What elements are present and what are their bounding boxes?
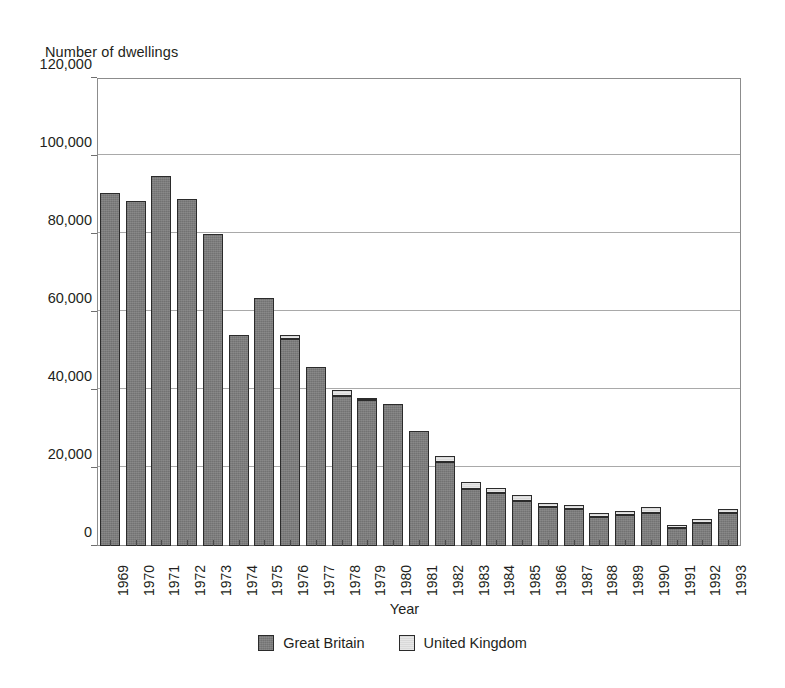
bar-segment-united-kingdom-1979[interactable] [357, 398, 377, 400]
chart-legend: Great BritainUnited Kingdom [0, 635, 785, 651]
x-tick-label-1985: 1985 [528, 550, 542, 596]
bar-segment-great-britain-1983[interactable] [461, 489, 481, 546]
x-tick-label-1980: 1980 [399, 550, 413, 596]
x-tick-label-1993: 1993 [734, 550, 748, 596]
bar-segment-great-britain-1973[interactable] [203, 234, 223, 546]
x-tick-mark-1975 [264, 540, 265, 546]
bar-segment-united-kingdom-1986[interactable] [538, 503, 558, 507]
x-tick-mark-1971 [161, 540, 162, 546]
x-tick-mark-1988 [599, 540, 600, 546]
bar-segment-great-britain-1979[interactable] [357, 400, 377, 546]
x-tick-mark-1982 [445, 540, 446, 546]
bar-segment-great-britain-1975[interactable] [254, 298, 274, 546]
bars-layer [97, 78, 741, 546]
bar-segment-great-britain-1980[interactable] [383, 404, 403, 546]
x-tick-mark-1978 [342, 540, 343, 546]
x-tick-label-1976: 1976 [296, 550, 310, 596]
x-axis-title-text: Year [390, 601, 419, 617]
bar-group-1982[interactable] [435, 456, 455, 546]
x-tick-mark-1970 [136, 540, 137, 546]
bar-segment-united-kingdom-1982[interactable] [435, 456, 455, 462]
x-tick-label-1984: 1984 [502, 550, 516, 596]
x-tick-label-1974: 1974 [245, 550, 259, 596]
legend-swatch-united-kingdom [399, 635, 415, 651]
x-tick-label-1989: 1989 [631, 550, 645, 596]
x-tick-mark-1984 [496, 540, 497, 546]
bar-group-1980[interactable] [383, 404, 403, 546]
bar-segment-great-britain-1970[interactable] [126, 201, 146, 546]
x-tick-label-1982: 1982 [451, 550, 465, 596]
bar-group-1981[interactable] [409, 431, 429, 546]
bar-segment-united-kingdom-1991[interactable] [667, 525, 687, 529]
x-tick-label-1969: 1969 [116, 550, 130, 596]
bar-segment-united-kingdom-1987[interactable] [564, 505, 584, 509]
x-tick-label-1992: 1992 [708, 550, 722, 596]
x-tick-label-1979: 1979 [373, 550, 387, 596]
bar-segment-great-britain-1972[interactable] [177, 199, 197, 546]
x-tick-mark-1992 [702, 540, 703, 546]
bar-segment-united-kingdom-1984[interactable] [486, 488, 506, 494]
x-tick-mark-1991 [677, 540, 678, 546]
bar-segment-great-britain-1976[interactable] [280, 339, 300, 546]
bar-segment-great-britain-1977[interactable] [306, 367, 326, 546]
bar-segment-great-britain-1978[interactable] [332, 396, 352, 546]
bar-segment-united-kingdom-1988[interactable] [589, 513, 609, 517]
bar-segment-united-kingdom-1990[interactable] [641, 507, 661, 513]
x-tick-mark-1976 [290, 540, 291, 546]
y-tick-label-120000: 120,000 [22, 57, 92, 71]
bar-group-1977[interactable] [306, 367, 326, 546]
bar-segment-united-kingdom-1978[interactable] [332, 390, 352, 396]
bar-group-1979[interactable] [357, 398, 377, 546]
y-axis-tick-labels: 020,00040,00060,00080,000100,000120,000 [18, 78, 92, 546]
bar-segment-united-kingdom-1976[interactable] [280, 335, 300, 339]
bar-segment-united-kingdom-1985[interactable] [512, 495, 532, 501]
x-tick-label-1970: 1970 [142, 550, 156, 596]
bar-group-1972[interactable] [177, 199, 197, 546]
bar-group-1973[interactable] [203, 234, 223, 546]
bar-segment-great-britain-1984[interactable] [486, 493, 506, 546]
bar-segment-great-britain-1969[interactable] [100, 193, 120, 546]
bar-segment-united-kingdom-1992[interactable] [692, 519, 712, 523]
bar-group-1985[interactable] [512, 495, 532, 546]
bar-group-1975[interactable] [254, 298, 274, 546]
y-tick-label-40000: 40,000 [22, 369, 92, 383]
x-tick-label-1975: 1975 [270, 550, 284, 596]
x-tick-mark-1980 [393, 540, 394, 546]
bar-group-1971[interactable] [151, 176, 171, 547]
x-tick-mark-1981 [419, 540, 420, 546]
legend-entry-united-kingdom[interactable]: United Kingdom [399, 635, 527, 651]
x-axis-title: Year [0, 601, 785, 617]
bar-group-1974[interactable] [229, 335, 249, 546]
bar-segment-great-britain-1974[interactable] [229, 335, 249, 546]
x-tick-label-1978: 1978 [348, 550, 362, 596]
bar-group-1976[interactable] [280, 335, 300, 546]
legend-label-great-britain: Great Britain [283, 635, 364, 651]
x-tick-mark-1990 [651, 540, 652, 546]
x-tick-mark-1979 [367, 540, 368, 546]
bar-group-1983[interactable] [461, 482, 481, 546]
x-tick-label-1972: 1972 [193, 550, 207, 596]
x-tick-mark-1977 [316, 540, 317, 546]
bar-group-1969[interactable] [100, 193, 120, 546]
bar-group-1970[interactable] [126, 201, 146, 546]
legend-swatch-great-britain [258, 635, 274, 651]
x-tick-label-1987: 1987 [580, 550, 594, 596]
bar-group-1984[interactable] [486, 488, 506, 547]
x-axis-tick-marks [97, 540, 741, 548]
x-tick-mark-1987 [574, 540, 575, 546]
x-tick-mark-1983 [471, 540, 472, 546]
bar-segment-united-kingdom-1983[interactable] [461, 482, 481, 490]
bar-group-1978[interactable] [332, 390, 352, 546]
x-tick-label-1988: 1988 [605, 550, 619, 596]
x-tick-mark-1985 [522, 540, 523, 546]
legend-entry-great-britain[interactable]: Great Britain [258, 635, 364, 651]
bar-segment-great-britain-1982[interactable] [435, 462, 455, 546]
bar-segment-great-britain-1971[interactable] [151, 176, 171, 547]
x-tick-label-1983: 1983 [477, 550, 491, 596]
x-tick-mark-1974 [239, 540, 240, 546]
bar-segment-united-kingdom-1993[interactable] [718, 509, 738, 513]
bar-segment-great-britain-1981[interactable] [409, 431, 429, 546]
bar-segment-united-kingdom-1989[interactable] [615, 511, 635, 515]
y-tick-label-80000: 80,000 [22, 213, 92, 227]
x-tick-mark-1993 [728, 540, 729, 546]
